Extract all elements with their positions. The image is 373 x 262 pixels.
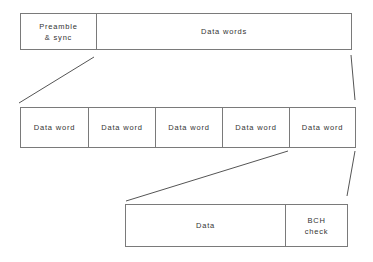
data-word-field-1: Data word (21, 108, 88, 147)
data-word-box: Data BCH check (125, 204, 348, 247)
expansion-line-right-1 (351, 55, 355, 100)
expansion-line-left-1 (19, 57, 94, 103)
data-words-field: Data words (96, 14, 351, 49)
expansion-line-right-2 (347, 151, 355, 196)
preamble-sync-field: Preamble & sync (21, 14, 96, 49)
bch-check-field: BCH check (285, 205, 347, 246)
data-field: Data (126, 205, 285, 246)
data-word-field-2: Data word (88, 108, 155, 147)
data-word-field-4: Data word (222, 108, 289, 147)
frame-box: Preamble & sync Data words (20, 13, 352, 50)
data-words-box: Data word Data word Data word Data word … (20, 107, 356, 148)
expansion-line-left-2 (126, 151, 288, 201)
data-word-field-3: Data word (155, 108, 222, 147)
data-word-field-5: Data word (289, 108, 355, 147)
